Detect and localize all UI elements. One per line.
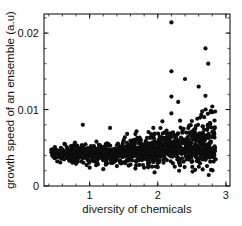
- data-point: [123, 161, 127, 165]
- data-point: [205, 164, 209, 168]
- data-point: [134, 129, 138, 133]
- data-point: [182, 165, 186, 169]
- data-point: [204, 107, 208, 111]
- data-point-group: [49, 20, 218, 177]
- data-point: [136, 154, 140, 158]
- data-point: [190, 119, 194, 123]
- data-point: [175, 154, 179, 158]
- data-point: [201, 143, 205, 147]
- data-point: [102, 149, 106, 153]
- data-point: [138, 141, 142, 145]
- data-point: [124, 144, 128, 148]
- data-point: [117, 159, 121, 163]
- data-point: [197, 139, 201, 143]
- x-tick-labels: 123: [87, 189, 229, 201]
- data-point: [162, 138, 166, 142]
- data-point: [150, 148, 154, 152]
- y-tick-labels: 00.010.02: [18, 27, 39, 192]
- data-point: [169, 94, 173, 98]
- data-point: [50, 150, 54, 154]
- data-point: [115, 164, 119, 168]
- data-point: [192, 128, 196, 132]
- data-point: [201, 167, 205, 171]
- y-tick-label: 0.01: [18, 104, 39, 116]
- data-point: [152, 170, 156, 174]
- data-point: [73, 153, 77, 157]
- data-point: [207, 152, 211, 156]
- data-point: [127, 155, 131, 159]
- data-point: [160, 144, 164, 148]
- data-point: [137, 135, 141, 139]
- data-point: [81, 156, 85, 160]
- data-point: [166, 138, 170, 142]
- y-tick-label: 0: [33, 180, 39, 192]
- data-point: [184, 130, 188, 134]
- data-point: [197, 85, 201, 89]
- data-point: [108, 126, 112, 130]
- data-point: [140, 152, 144, 156]
- data-point: [77, 154, 81, 158]
- data-point: [212, 155, 216, 159]
- data-point: [154, 149, 158, 153]
- data-point: [170, 147, 174, 151]
- y-tick-label: 0.02: [18, 27, 39, 39]
- data-point: [178, 119, 182, 123]
- data-point: [176, 100, 180, 104]
- data-point: [210, 104, 214, 108]
- data-point: [171, 161, 175, 165]
- data-point: [134, 163, 138, 167]
- data-point: [156, 165, 160, 169]
- plot-canvas: 123 00.010.02 diversity of chemicals gro…: [0, 0, 242, 226]
- data-point: [209, 168, 213, 172]
- data-point: [97, 146, 101, 150]
- data-point: [83, 142, 87, 146]
- data-point: [194, 153, 198, 157]
- data-point: [54, 149, 58, 153]
- x-tick-label: 3: [223, 189, 229, 201]
- data-point: [190, 159, 194, 163]
- data-point: [169, 69, 173, 73]
- data-point: [83, 151, 87, 155]
- data-point: [143, 157, 147, 161]
- data-point: [165, 148, 169, 152]
- data-point: [199, 113, 203, 117]
- data-point: [148, 143, 152, 147]
- data-point: [94, 149, 98, 153]
- data-point: [133, 149, 137, 153]
- data-point: [141, 163, 145, 167]
- data-point: [70, 157, 74, 161]
- data-point: [101, 167, 105, 171]
- data-point: [169, 111, 173, 115]
- data-point: [144, 139, 148, 143]
- data-point: [149, 135, 153, 139]
- data-point: [177, 141, 181, 145]
- data-point: [157, 159, 161, 163]
- data-point: [125, 132, 129, 136]
- data-point: [146, 130, 150, 134]
- data-point: [177, 169, 181, 173]
- data-point: [212, 159, 216, 163]
- data-point: [160, 119, 164, 123]
- data-point: [164, 143, 168, 147]
- data-point: [50, 154, 54, 158]
- data-point: [169, 20, 173, 24]
- data-point: [194, 124, 198, 128]
- data-point: [80, 147, 84, 151]
- data-point: [151, 160, 155, 164]
- data-point: [121, 141, 125, 145]
- x-tick-label: 1: [87, 189, 93, 201]
- data-point: [130, 158, 134, 162]
- data-point: [137, 149, 141, 153]
- data-point: [95, 157, 99, 161]
- data-point: [183, 77, 187, 81]
- data-point: [127, 163, 131, 167]
- data-point: [153, 154, 157, 158]
- data-point: [117, 154, 121, 158]
- data-point: [86, 158, 90, 162]
- data-point: [177, 161, 181, 165]
- data-point: [110, 161, 114, 165]
- data-point: [66, 146, 70, 150]
- data-point: [116, 144, 120, 148]
- data-point: [207, 155, 211, 159]
- data-point: [192, 147, 196, 151]
